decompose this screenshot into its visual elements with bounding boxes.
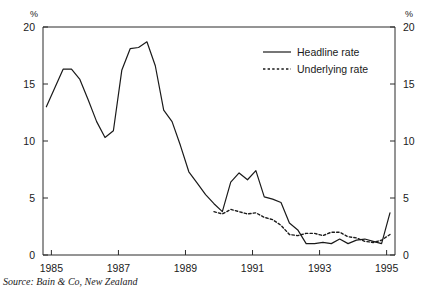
x-tick-label: 1995	[375, 262, 399, 274]
y-axis-unit-right: %	[405, 9, 413, 19]
x-tick-label: 1985	[40, 262, 64, 274]
x-tick-label: 1991	[241, 262, 265, 274]
y-tick-label: 0	[29, 249, 35, 261]
y-tick-label: 15	[23, 78, 35, 90]
y-tick-label: 20	[23, 21, 35, 33]
x-tick-label: 1989	[174, 262, 198, 274]
legend-label-underlying-rate: Underlying rate	[297, 63, 368, 75]
chart-figure: 0055101015152020 19851987198919911993199…	[0, 0, 427, 294]
legend-label-headline-rate: Headline rate	[297, 46, 360, 58]
y-tick-label-right: 20	[403, 21, 415, 33]
y-tick-label-right: 0	[403, 249, 409, 261]
plot-border	[43, 27, 395, 255]
y-tick-label-right: 10	[403, 135, 415, 147]
source-note: Source: Bain & Co, New Zealand	[3, 276, 138, 287]
x-axis-ticks: 198519871989199119931995	[40, 250, 399, 274]
x-tick-label: 1993	[308, 262, 332, 274]
y-tick-label-right: 15	[403, 78, 415, 90]
y-axis-unit-left: %	[30, 9, 38, 19]
x-tick-label: 1987	[107, 262, 131, 274]
y-tick-label-right: 5	[403, 192, 409, 204]
y-tick-label: 10	[23, 135, 35, 147]
plot-frame	[43, 27, 395, 255]
inflation-line-chart: 0055101015152020 19851987198919911993199…	[0, 0, 427, 294]
chart-legend: Headline rate Underlying rate	[263, 46, 368, 75]
y-tick-label: 5	[29, 192, 35, 204]
